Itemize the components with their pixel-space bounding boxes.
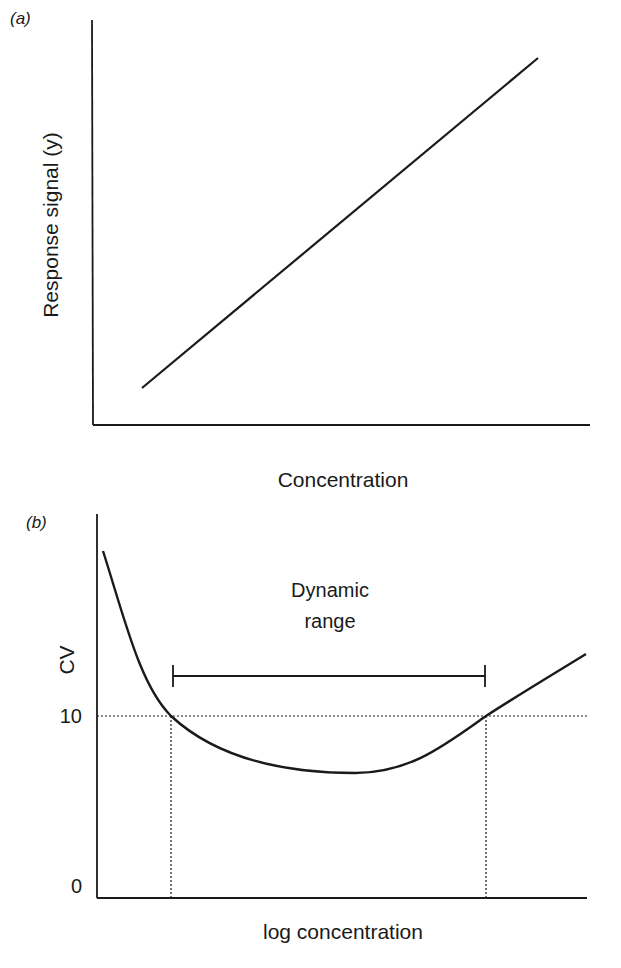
panel-a-label: (a) <box>10 9 31 28</box>
dynamic-range-bar <box>173 665 485 687</box>
figure: (a) Response signal (y) Concentration (b… <box>0 0 621 968</box>
panel-b-y-axis-title: CV <box>55 645 78 674</box>
panel-a-y-axis-title: Response signal (y) <box>39 132 62 318</box>
y-tick-0: 0 <box>71 875 82 897</box>
dynamic-range-label-line1: Dynamic <box>291 579 369 601</box>
calibration-line <box>142 58 538 388</box>
panel-b-x-axis-title: log concentration <box>263 920 423 943</box>
panel-a: (a) Response signal (y) Concentration <box>10 9 590 491</box>
panel-b: (b) Dynamic range CV 10 0 log concentrat… <box>26 513 587 943</box>
panel-a-y-axis <box>92 20 93 425</box>
panel-a-x-axis-title: Concentration <box>278 468 409 491</box>
y-tick-10: 10 <box>60 705 82 727</box>
dynamic-range-label-line2: range <box>304 610 355 632</box>
panel-b-label: (b) <box>26 513 47 532</box>
